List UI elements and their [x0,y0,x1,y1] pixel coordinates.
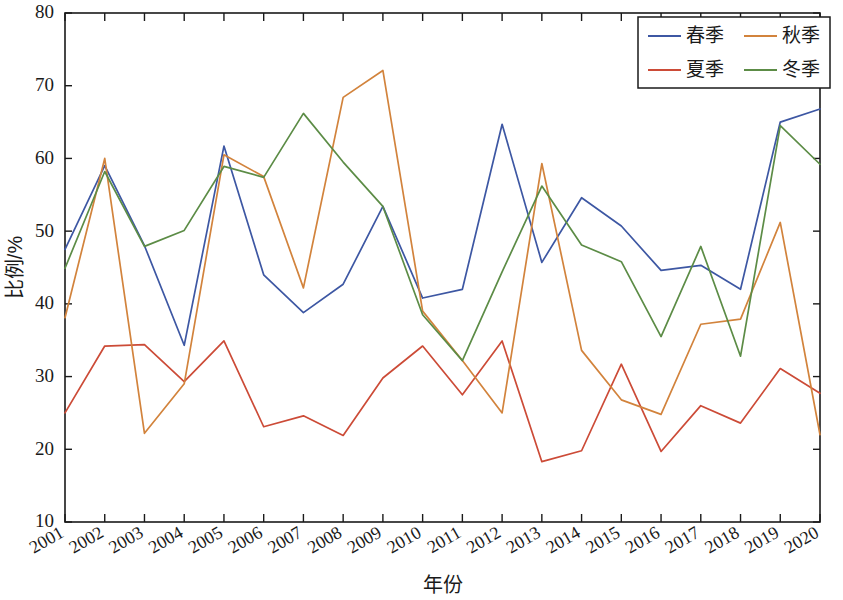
x-tick-label: 2008 [304,522,345,557]
data-series-group [65,70,820,461]
line-chart-figure: 1020304050607080 20012002200320042005200… [0,0,843,600]
x-tick-label: 2011 [424,522,465,557]
x-tick-label: 2009 [344,522,385,557]
legend-label-秋季: 秋季 [782,25,820,46]
x-tick-label: 2020 [781,522,822,557]
x-tick-label: 2018 [701,522,742,557]
x-axis-ticks: 2001200220032004200520062007200820092010… [26,13,822,557]
x-tick-label: 2005 [185,522,226,557]
x-tick-label: 2010 [383,522,424,557]
x-tick-label: 2007 [264,522,305,557]
x-tick-label: 2013 [503,522,544,557]
x-axis-title: 年份 [423,574,463,596]
y-axis-title: 比例/% [4,236,26,300]
series-line-夏季 [65,341,820,462]
legend-label-春季: 春季 [686,25,724,46]
x-tick-label: 2019 [741,522,782,557]
series-line-秋季 [65,70,820,434]
x-tick-label: 2012 [463,522,504,557]
x-tick-label: 2004 [145,522,186,557]
y-tick-label: 20 [35,438,54,459]
x-tick-label: 2003 [105,522,146,557]
x-tick-label: 2002 [66,522,107,557]
chart-legend: 春季秋季夏季冬季 [638,17,830,88]
chart-canvas: 1020304050607080 20012002200320042005200… [0,0,843,600]
x-tick-label: 2001 [26,522,67,557]
x-tick-label: 2016 [622,522,663,557]
x-tick-label: 2015 [582,522,623,557]
y-tick-label: 40 [35,292,54,313]
y-tick-label: 70 [35,74,54,95]
x-tick-label: 2017 [662,522,703,557]
y-tick-label: 60 [35,147,54,168]
series-line-春季 [65,109,820,345]
legend-label-冬季: 冬季 [782,59,820,80]
y-tick-label: 30 [35,365,54,386]
plot-area-border [65,13,820,522]
plot-frame [65,13,820,522]
legend-label-夏季: 夏季 [686,59,724,80]
x-tick-label: 2006 [225,522,266,557]
x-tick-label: 2014 [542,522,583,557]
y-tick-label: 80 [35,1,54,22]
y-tick-label: 50 [35,220,54,241]
